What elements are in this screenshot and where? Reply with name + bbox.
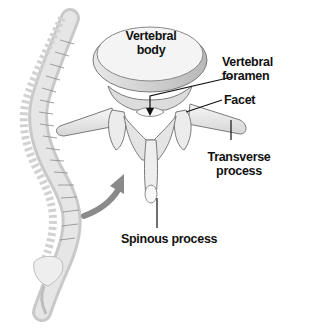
label-spinous-process: Spinous process xyxy=(121,232,217,246)
spine-illustration xyxy=(24,18,79,314)
label-transverse-process: Transverse process xyxy=(200,150,278,178)
label-vertebral-foramen: Vertebral foramen xyxy=(222,55,273,83)
label-line: Vertebral xyxy=(116,29,186,43)
label-facet: Facet xyxy=(224,93,255,107)
label-line: Transverse xyxy=(200,150,278,164)
label-line: process xyxy=(200,164,278,178)
curved-arrow-icon xyxy=(84,174,124,216)
label-line: body xyxy=(116,43,186,57)
label-vertebral-body: Vertebral body xyxy=(116,29,186,57)
label-line: foramen xyxy=(222,69,273,83)
label-line: Vertebral xyxy=(222,55,273,69)
